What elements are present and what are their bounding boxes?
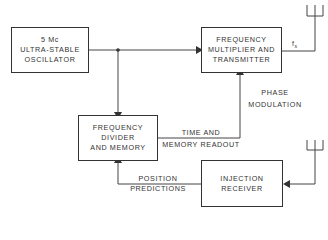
phase-modulation-line-1: PHASE [241, 88, 309, 98]
phase-modulation-label: PHASE MODULATION [241, 88, 309, 110]
oscillator-line-2: ULTRA-STABLE [20, 45, 80, 55]
time-memory-line-2: MEMORY READOUT [161, 140, 241, 150]
injection-receiver-block: INJECTION RECEIVER [201, 160, 283, 207]
fs-subscript: s [295, 43, 298, 49]
time-memory-line-1: TIME AND [161, 128, 241, 138]
phase-modulation-line-2: MODULATION [241, 100, 309, 110]
multiplier-line-2: MULTIPLIER AND [208, 45, 275, 55]
fs-label: fs [292, 39, 298, 51]
multiplier-transmitter-block: FREQUENCY MULTIPLIER AND TRANSMITTER [201, 27, 282, 73]
oscillator-line-1: 5 Mc [41, 35, 59, 45]
oscillator-line-3: OSCILLATOR [25, 55, 76, 65]
divider-line-2: DIVIDER [101, 133, 134, 143]
receiver-line-1: INJECTION [220, 174, 263, 184]
time-memory-readout-label: TIME AND MEMORY READOUT [161, 128, 241, 150]
multiplier-line-3: TRANSMITTER [213, 55, 271, 65]
position-predictions-label: POSITION PREDICTIONS [118, 174, 198, 194]
position-predictions-line-1: POSITION [118, 174, 198, 184]
receiver-line-2: RECEIVER [221, 184, 263, 194]
divider-memory-block: FREQUENCY DIVIDER AND MEMORY [78, 115, 158, 161]
position-predictions-line-2: PREDICTIONS [118, 184, 198, 194]
divider-line-1: FREQUENCY [93, 123, 144, 133]
oscillator-block: 5 Mc ULTRA-STABLE OSCILLATOR [11, 27, 89, 73]
divider-line-3: AND MEMORY [90, 143, 145, 153]
multiplier-line-1: FREQUENCY [216, 35, 267, 45]
